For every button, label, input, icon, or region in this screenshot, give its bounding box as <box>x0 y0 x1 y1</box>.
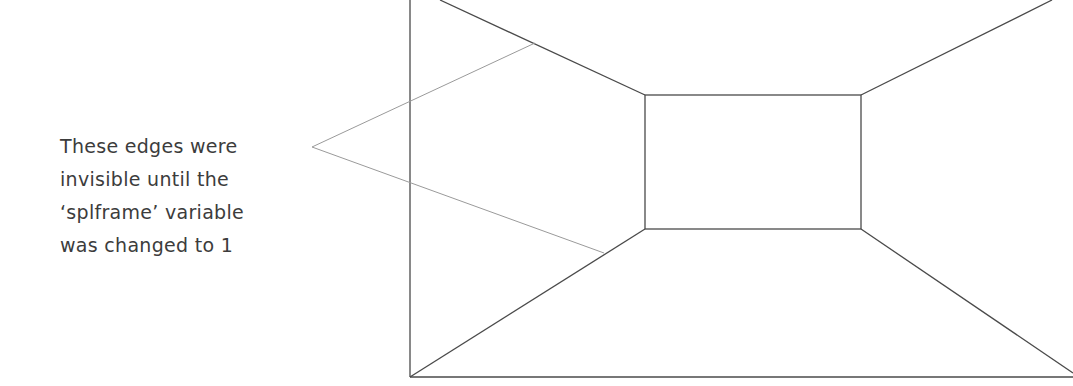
diagonal-top-left <box>440 0 645 95</box>
inner-box <box>645 95 861 229</box>
diagonal-top-right <box>861 0 1052 95</box>
annotation-line-4: was changed to 1 <box>60 229 320 262</box>
annotation-line-3: ‘splframe’ variable <box>60 196 320 229</box>
annotation-line-1: These edges were <box>60 130 320 163</box>
diagonal-bottom-left <box>410 229 645 377</box>
annotation-text: These edges were invisible until the ‘sp… <box>60 130 320 262</box>
leader-line-upper <box>312 43 535 147</box>
leader-line-lower <box>312 147 604 253</box>
annotation-line-2: invisible until the <box>60 163 320 196</box>
diagonal-bottom-right <box>861 229 1073 373</box>
